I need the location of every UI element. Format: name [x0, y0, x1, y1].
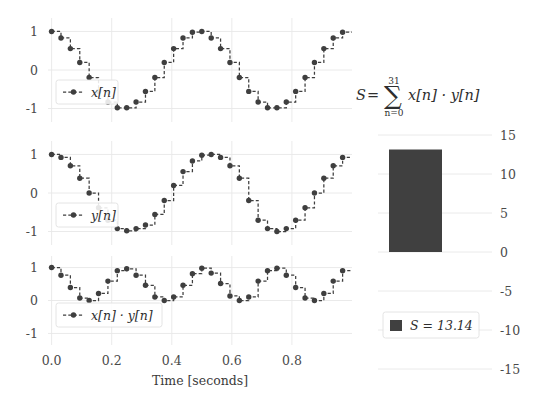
- y-tick-label: -1: [26, 326, 38, 341]
- formula-upper-limit: 31: [388, 76, 399, 86]
- legend-sample-marker: [71, 89, 76, 94]
- signal-marker: [124, 266, 129, 271]
- signal-marker: [199, 153, 204, 158]
- signal-marker: [68, 163, 73, 168]
- signal-marker: [293, 218, 298, 223]
- sum-y-tick-label: -5: [500, 284, 512, 299]
- signal-marker: [284, 226, 289, 231]
- signal-marker: [321, 46, 326, 51]
- legend-x[interactable]: x[n]: [56, 80, 118, 104]
- figure-svg: 10-1x[n]10-1y[n]10-1x[n] · y[n]0.00.20.4…: [0, 0, 535, 406]
- signal-marker: [171, 294, 176, 299]
- signal-marker: [77, 176, 82, 181]
- signal-step-line: [52, 268, 352, 301]
- formula-symbol-S: S: [356, 87, 366, 103]
- y-tick-label: 0: [30, 186, 38, 201]
- legend-color-swatch: [390, 320, 402, 331]
- signal-marker: [312, 190, 317, 195]
- signal-marker: [255, 99, 260, 104]
- signal-marker: [293, 285, 298, 290]
- signal-panel-x: 10-1x[n]: [26, 18, 352, 122]
- signal-marker: [171, 46, 176, 51]
- legend-xy[interactable]: x[n] · y[n]: [56, 303, 162, 327]
- signal-marker: [77, 60, 82, 65]
- sum-bar[interactable]: [389, 150, 442, 252]
- signal-marker: [246, 294, 251, 299]
- signal-marker: [162, 60, 167, 65]
- signal-marker: [133, 272, 138, 277]
- x-tick-label: 0.4: [162, 353, 182, 368]
- signal-marker: [227, 293, 232, 298]
- signal-marker: [227, 163, 232, 168]
- signal-marker: [331, 163, 336, 168]
- signal-panel-xy: 10-1x[n] · y[n]: [26, 256, 352, 345]
- signal-marker: [58, 272, 63, 277]
- signal-marker: [208, 270, 213, 275]
- y-tick-label: 1: [30, 24, 38, 39]
- signal-marker: [49, 152, 54, 157]
- signal-marker: [86, 298, 91, 303]
- signal-marker: [246, 198, 251, 203]
- signal-marker: [180, 169, 185, 174]
- sum-y-tick-label: -15: [500, 362, 520, 377]
- signal-marker: [190, 158, 195, 163]
- x-tick-label: 0.2: [102, 353, 122, 368]
- sum-legend[interactable]: S = 13.14: [383, 312, 479, 338]
- signal-marker: [86, 190, 91, 195]
- legend-sample-marker: [71, 212, 76, 217]
- signal-marker: [302, 295, 307, 300]
- signal-marker: [143, 89, 148, 94]
- signal-marker: [115, 268, 120, 273]
- signal-marker: [152, 212, 157, 217]
- signal-marker: [143, 222, 148, 227]
- signal-marker: [274, 265, 279, 270]
- y-tick-label: 1: [30, 147, 38, 162]
- signal-marker: [143, 283, 148, 288]
- signal-marker: [302, 75, 307, 80]
- legend-sample-marker: [71, 312, 76, 317]
- sum-formula: S=∑31n=0x[n] · y[n]: [356, 76, 480, 118]
- signal-marker: [218, 46, 223, 51]
- signal-marker: [237, 176, 242, 181]
- signal-marker: [312, 298, 317, 303]
- signal-marker: [265, 268, 270, 273]
- signal-marker: [49, 29, 54, 34]
- figure-canvas: 10-1x[n]10-1y[n]10-1x[n] · y[n]0.00.20.4…: [0, 0, 535, 406]
- signal-marker: [284, 99, 289, 104]
- signal-marker: [246, 89, 251, 94]
- signal-marker: [237, 75, 242, 80]
- signal-marker: [96, 291, 101, 296]
- signal-marker: [68, 46, 73, 51]
- signal-marker: [312, 60, 317, 65]
- signal-marker: [162, 198, 167, 203]
- legend-y[interactable]: y[n]: [56, 203, 118, 227]
- sum-y-tick-label: 15: [500, 128, 516, 143]
- signal-marker: [255, 278, 260, 283]
- signal-marker: [284, 272, 289, 277]
- signal-marker: [265, 226, 270, 231]
- signal-marker: [302, 205, 307, 210]
- x-tick-label: 0.8: [282, 353, 302, 368]
- signal-marker: [162, 298, 167, 303]
- signal-marker: [124, 105, 129, 110]
- signal-marker: [218, 281, 223, 286]
- formula-equals: =: [367, 87, 379, 103]
- legend-label: y[n]: [90, 208, 116, 223]
- signal-marker: [321, 176, 326, 181]
- legend-label: x[n]: [91, 85, 116, 100]
- sum-y-tick-label: 0: [500, 245, 508, 260]
- signal-marker: [124, 228, 129, 233]
- x-axis-title: Time [seconds]: [152, 373, 248, 388]
- signal-marker: [293, 89, 298, 94]
- signal-marker: [115, 105, 120, 110]
- signal-marker: [86, 75, 91, 80]
- signal-marker: [180, 283, 185, 288]
- signal-marker: [58, 155, 63, 160]
- sum-y-tick-label: -10: [500, 323, 520, 338]
- y-tick-label: 0: [30, 293, 38, 308]
- signal-marker: [321, 291, 326, 296]
- signal-marker: [58, 35, 63, 40]
- y-tick-label: 1: [30, 260, 38, 275]
- signal-marker: [237, 298, 242, 303]
- formula-summand: x[n] · y[n]: [408, 87, 480, 103]
